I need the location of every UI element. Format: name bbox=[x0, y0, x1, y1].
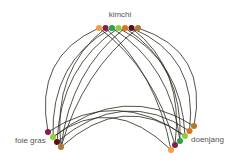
node-kimchi-k1 bbox=[103, 25, 109, 31]
hive-plot-diagram: kimchi foie gras doenjang bbox=[0, 0, 236, 163]
node-foie-gras-f2 bbox=[54, 139, 60, 145]
edge-k3-d2 bbox=[119, 28, 186, 136]
node-doenjang-d2 bbox=[182, 133, 188, 139]
node-doenjang-d0 bbox=[191, 123, 197, 129]
node-kimchi-k4 bbox=[122, 25, 128, 31]
node-doenjang-d4 bbox=[172, 142, 178, 148]
node-doenjang-d1 bbox=[187, 128, 193, 134]
node-kimchi-k2 bbox=[109, 25, 115, 31]
edge-f1-d5 bbox=[53, 117, 171, 150]
node-kimchi-k6 bbox=[135, 25, 141, 31]
node-kimchi-k0 bbox=[96, 25, 102, 31]
node-kimchi-k3 bbox=[116, 25, 122, 31]
edge-k0-d4 bbox=[99, 28, 175, 145]
edge-k6-d0 bbox=[138, 28, 197, 126]
node-foie-gras-f1 bbox=[50, 134, 56, 140]
edge-k6-f3 bbox=[61, 28, 138, 147]
edges-layer bbox=[45, 28, 196, 150]
edge-k1-d5 bbox=[106, 28, 172, 150]
node-foie-gras-f0 bbox=[45, 129, 51, 135]
group-label-kimchi: kimchi bbox=[109, 10, 132, 19]
group-label-foie-gras: foie gras bbox=[15, 136, 46, 145]
node-doenjang-d5 bbox=[168, 147, 174, 153]
group-label-doenjang: doenjang bbox=[191, 135, 224, 144]
node-doenjang-d3 bbox=[177, 138, 183, 144]
node-foie-gras-f3 bbox=[58, 144, 64, 150]
node-kimchi-k5 bbox=[129, 25, 135, 31]
